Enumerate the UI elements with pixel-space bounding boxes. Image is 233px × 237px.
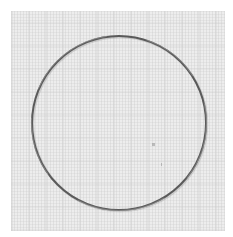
paper-speck: [161, 163, 162, 166]
photo-scene: Thin metal ring photographed on a light …: [0, 0, 233, 237]
ring-body: [32, 36, 206, 210]
paper-speck: [152, 143, 155, 146]
metal-ring: [0, 0, 233, 237]
